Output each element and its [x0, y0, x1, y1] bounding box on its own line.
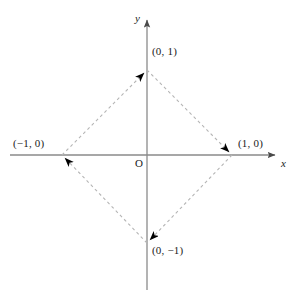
- vertex-label-right: (1, 0): [238, 138, 263, 149]
- rhombus-side-right-to-bottom: [150, 155, 232, 240]
- origin-label: O: [135, 158, 143, 169]
- vertex-label-left: (−1, 0): [13, 138, 44, 149]
- y-axis-label: y: [135, 13, 140, 24]
- diagram-canvas: [0, 0, 298, 302]
- vertex-label-top: (0, 1): [152, 46, 177, 57]
- coordinate-plane-rhombus-figure: (0, 1) (1, 0) (0, −1) (−1, 0) O x y: [0, 0, 298, 302]
- rhombus-side-top-to-right: [147, 70, 229, 152]
- vertex-label-bottom: (0, −1): [152, 245, 183, 256]
- rhombus-side-left-to-top: [62, 73, 144, 155]
- x-axis-label: x: [281, 158, 286, 169]
- rhombus-side-bottom-to-left: [65, 158, 147, 243]
